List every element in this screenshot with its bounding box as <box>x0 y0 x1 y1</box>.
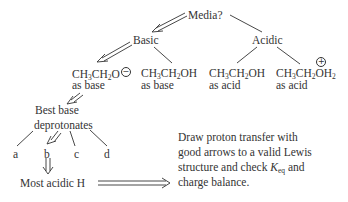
double-arrow-to-best-base <box>67 93 83 104</box>
option-d: d <box>104 148 110 160</box>
formula-ethanol-base: CH3CH2OH <box>141 67 197 79</box>
line-to-a <box>17 131 33 146</box>
line-media-acidic <box>230 15 262 32</box>
node-acidic: Acidic <box>252 34 283 46</box>
node-basic: Basic <box>133 34 159 46</box>
best-base-label: Best base <box>35 104 79 116</box>
deprotonates-label: deprotonates <box>34 119 93 131</box>
line-basic-ethanol <box>154 47 172 63</box>
option-b: b <box>44 148 50 160</box>
double-arrow-basic-alkoxide <box>97 42 132 62</box>
role-label: as base <box>141 79 174 91</box>
double-arrow-to-instruction <box>98 178 170 188</box>
formula-oxonium: CH3CH2O+H2 <box>276 67 336 79</box>
formula-ethanol-acid: CH3CH2OH <box>209 67 265 79</box>
negative-charge-icon: − <box>121 67 131 77</box>
role-label: as acid <box>209 79 241 91</box>
role-label: as acid <box>276 79 308 91</box>
line-to-c <box>70 131 75 146</box>
line-acidic-oxonium <box>277 47 300 64</box>
role-label: as base <box>72 79 105 91</box>
root-node-media: Media? <box>188 9 222 21</box>
double-arrow-b-down <box>43 158 53 174</box>
line-acidic-ethanol <box>237 47 257 63</box>
most-acidic-h-label: Most acidic H <box>20 177 85 189</box>
instruction-text: Draw proton transfer with good arrows to… <box>178 130 312 190</box>
option-a: a <box>13 148 18 160</box>
double-arrow-to-b <box>47 131 61 144</box>
double-arrow-media-basic <box>152 13 187 32</box>
option-c: c <box>74 148 79 160</box>
line-to-d <box>90 130 107 146</box>
